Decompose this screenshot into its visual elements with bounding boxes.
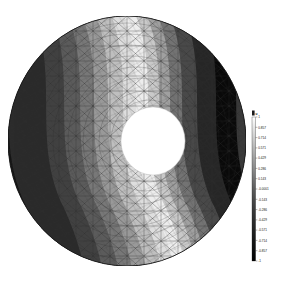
colorbar-gradient-strip: [252, 117, 256, 261]
colorbar-svg: u 1: [250, 110, 293, 265]
colorbar-tick-label-7: -0.0001: [258, 187, 269, 191]
colorbar-tick-label-6: 0.143: [258, 177, 266, 181]
contour-plot-svg: [8, 16, 246, 266]
colorbar-tick-label-1: 0.857: [258, 126, 266, 130]
colorbar-tick-label-0: 1: [258, 115, 260, 119]
colorbar-tick-label-10: -0.429: [258, 218, 267, 222]
colorbar-tick-label-12: -0.714: [258, 239, 267, 243]
colorbar-tick-label-14: -1: [258, 259, 261, 263]
colorbar-tick-label-3: 0.571: [258, 146, 266, 150]
colorbar: u 1: [250, 110, 293, 265]
colorbar-top-marker-icon: [252, 111, 255, 116]
inner-hole-circle: [121, 107, 185, 175]
contour-plot-area: [8, 16, 246, 266]
colorbar-tick-label-4: 0.429: [258, 156, 266, 160]
colorbar-tick-label-2: 0.714: [258, 136, 266, 140]
colorbar-tick-label-9: -0.286: [258, 208, 267, 212]
figure-canvas: u 1: [0, 0, 293, 281]
colorbar-ticks: [256, 117, 258, 261]
colorbar-tick-label-5: 0.286: [258, 167, 266, 171]
colorbar-tick-label-13: -0.857: [258, 249, 267, 253]
colorbar-tick-label-11: -0.571: [258, 228, 267, 232]
colorbar-tick-label-8: -0.143: [258, 198, 267, 202]
